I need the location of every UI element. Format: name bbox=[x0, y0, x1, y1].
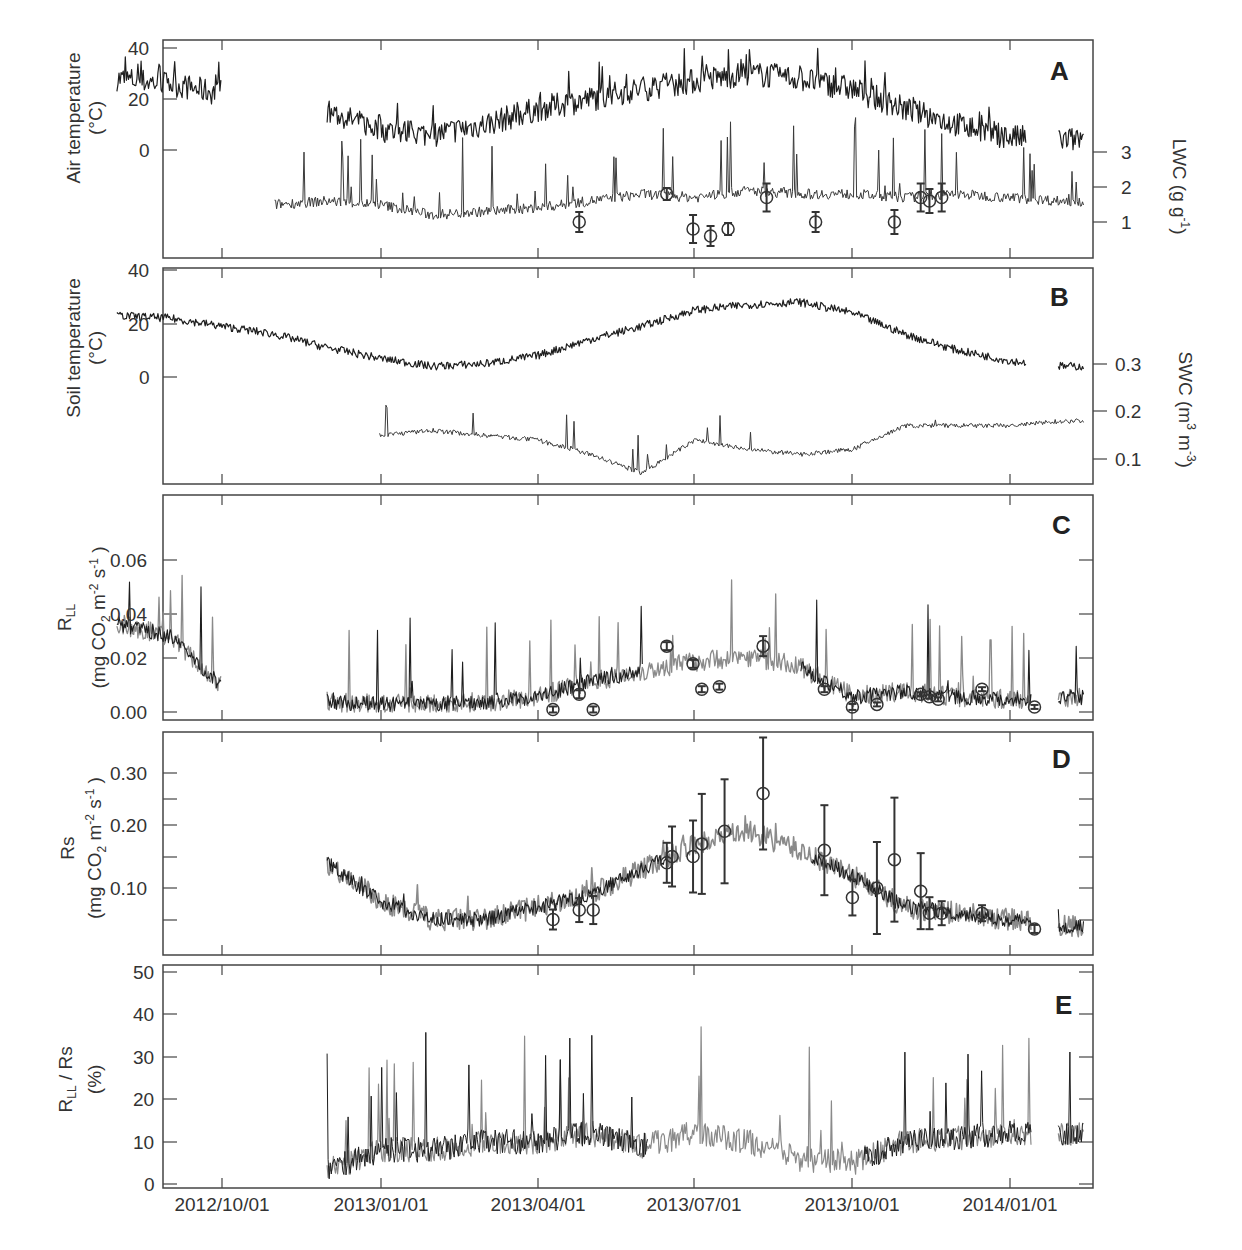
air-temperature-line bbox=[117, 48, 1084, 149]
ytick-e-40: 40 bbox=[133, 1004, 154, 1026]
rll-gray-line bbox=[117, 575, 1084, 712]
ytick-a-20: 20 bbox=[128, 89, 149, 111]
unit-s: s bbox=[88, 569, 109, 584]
lwc-label-text: LWC (g g bbox=[1169, 139, 1190, 218]
rtick-a-1: 1 bbox=[1121, 212, 1132, 234]
ytick-d-0.10: 0.10 bbox=[110, 878, 147, 900]
panel-label-a: A bbox=[1050, 56, 1069, 87]
ytick-e-10: 10 bbox=[133, 1132, 154, 1154]
rs-main: Rs bbox=[57, 733, 79, 963]
ytick-c-0.02: 0.02 bbox=[110, 648, 147, 670]
rll-sub: LL bbox=[64, 604, 78, 617]
ratio-sub: LL bbox=[65, 1085, 79, 1098]
swc-label-text: SWC (m bbox=[1175, 351, 1196, 423]
ratio-main: R bbox=[55, 1099, 76, 1113]
ratio-unit: (%) bbox=[83, 984, 105, 1174]
unit-mid: m bbox=[84, 825, 105, 846]
panel-label-b: B bbox=[1050, 282, 1069, 313]
unit-sup2: -1 bbox=[86, 558, 100, 569]
rtick-b-0.1: 0.1 bbox=[1115, 449, 1141, 471]
rll-main: R bbox=[54, 617, 75, 631]
swc-line bbox=[380, 405, 1084, 474]
unit-1: (mg CO bbox=[88, 622, 109, 689]
ytick-b-40: 40 bbox=[128, 260, 149, 282]
ytick-b-20: 20 bbox=[128, 314, 149, 336]
right-axis-label-swc: SWC (m3 m-3) bbox=[1174, 330, 1197, 490]
ylabel-line2: (°C) bbox=[85, 23, 107, 213]
xtick-2013-01-01: 2013/01/01 bbox=[333, 1194, 428, 1216]
swc-sup2: -3 bbox=[1184, 451, 1198, 462]
lwc-label-end: ) bbox=[1169, 228, 1190, 234]
y-axis-label-rll: RLL (mg CO2 m-2 s-1 ) bbox=[54, 502, 117, 732]
ratio-label: RLL / Rs bbox=[55, 984, 84, 1174]
xtick-2013-10-01: 2013/10/01 bbox=[804, 1194, 899, 1216]
ytick-d-0.30: 0.30 bbox=[110, 763, 147, 785]
lwc-label-sup: -1 bbox=[1178, 218, 1192, 229]
rtick-a-2: 2 bbox=[1121, 177, 1132, 199]
panel-frame-e bbox=[163, 965, 1093, 1188]
panel-label-c: C bbox=[1052, 510, 1071, 541]
ratio-gray-line bbox=[327, 1027, 1083, 1178]
ytick-c-0.00: 0.00 bbox=[110, 702, 147, 724]
rll-label: RLL bbox=[54, 502, 83, 732]
ytick-a-40: 40 bbox=[128, 38, 149, 60]
rtick-b-0.3: 0.3 bbox=[1115, 354, 1141, 376]
ratio-rest: / Rs bbox=[55, 1046, 76, 1085]
ytick-c-0.06: 0.06 bbox=[110, 550, 147, 572]
ytick-e-30: 30 bbox=[133, 1047, 154, 1069]
unit-sup2: -1 bbox=[83, 789, 97, 800]
ytick-e-50: 50 bbox=[133, 962, 154, 984]
rtick-a-3: 3 bbox=[1121, 142, 1132, 164]
ylabel-line1: Soil temperature bbox=[63, 253, 85, 443]
panel-frame-b bbox=[163, 268, 1093, 484]
xtick-2014-01-01: 2014/01/01 bbox=[962, 1194, 1057, 1216]
swc-end: ) bbox=[1175, 462, 1196, 468]
right-axis-label-lwc: LWC (g g-1) bbox=[1168, 117, 1191, 257]
unit-mid: m bbox=[88, 594, 109, 615]
panel-frame-a bbox=[163, 40, 1093, 258]
rs-unit: (mg CO2 m-2 s-1 ) bbox=[79, 733, 113, 963]
y-axis-label-soil-temperature: Soil temperature (°C) bbox=[63, 253, 107, 443]
ytick-e-0: 0 bbox=[144, 1174, 155, 1196]
ytick-c-0.04: 0.04 bbox=[110, 604, 147, 626]
figure-canvas bbox=[0, 0, 1242, 1250]
y-axis-label-rll-rs: RLL / Rs (%) bbox=[55, 984, 106, 1174]
y-axis-label-air-temperature: Air temperature (°C) bbox=[63, 23, 107, 213]
panel-label-d: D bbox=[1052, 744, 1071, 775]
unit-sub: 2 bbox=[95, 846, 109, 853]
ytick-d-0.20: 0.20 bbox=[110, 815, 147, 837]
ytick-b-0: 0 bbox=[139, 367, 150, 389]
unit-1: (mg CO bbox=[84, 853, 105, 920]
unit-s: s bbox=[84, 799, 105, 814]
ylabel-line1: Air temperature bbox=[63, 23, 85, 213]
xtick-2013-07-01: 2013/07/01 bbox=[646, 1194, 741, 1216]
panel-frame-c bbox=[163, 495, 1093, 720]
rtick-b-0.2: 0.2 bbox=[1115, 401, 1141, 423]
unit-sup1: -2 bbox=[86, 584, 100, 595]
lwc-line bbox=[275, 118, 1084, 220]
ytick-a-0: 0 bbox=[139, 140, 150, 162]
panel-label-e: E bbox=[1055, 990, 1072, 1021]
y-axis-label-rs: Rs (mg CO2 m-2 s-1 ) bbox=[57, 733, 113, 963]
xtick-2013-04-01: 2013/04/01 bbox=[490, 1194, 585, 1216]
ylabel-line2: (°C) bbox=[85, 253, 107, 443]
swc-mid: m bbox=[1175, 430, 1196, 451]
soil-temperature-line bbox=[117, 299, 1084, 370]
ytick-e-20: 20 bbox=[133, 1089, 154, 1111]
unit-end: ) bbox=[88, 546, 109, 558]
xtick-2012-10-01: 2012/10/01 bbox=[174, 1194, 269, 1216]
unit-sup1: -2 bbox=[83, 814, 97, 825]
panel-frame-d bbox=[163, 732, 1093, 955]
unit-end: ) bbox=[84, 777, 105, 789]
